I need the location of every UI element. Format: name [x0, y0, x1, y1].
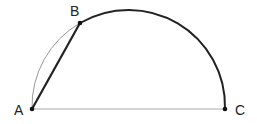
label-a: A	[14, 103, 23, 117]
label-b: B	[70, 4, 79, 18]
point-c	[223, 107, 228, 112]
label-c: C	[235, 103, 245, 117]
point-a	[30, 107, 35, 112]
chord-ab	[32, 23, 80, 109]
point-b	[78, 21, 83, 26]
arc-bc	[80, 10, 225, 109]
geometry-figure	[0, 0, 257, 124]
